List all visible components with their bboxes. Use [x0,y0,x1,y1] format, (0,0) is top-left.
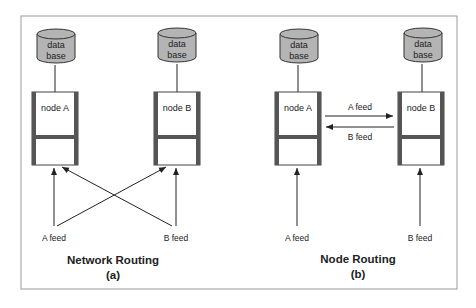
node-a: node A [275,92,321,165]
svg-text:base: base [413,50,433,60]
svg-text:node B: node B [163,103,192,113]
svg-text:data: data [290,40,308,50]
svg-text:data: data [168,39,186,49]
svg-text:node A: node A [284,103,312,113]
node-b: node B [398,92,444,165]
database-b: data base [404,28,442,62]
svg-text:base: base [167,50,187,60]
panel-a-subtitle: (a) [106,269,120,281]
svg-text:base: base [289,51,309,61]
feed-b-label: B feed [164,233,189,243]
node-b: node B [154,92,200,165]
feed-a-label: A feed [42,233,66,243]
diagram-frame [21,16,457,289]
panel-b-title: Node Routing [320,253,395,265]
node-a: node A [32,92,78,165]
svg-text:node B: node B [407,103,436,113]
database-a: data base [280,29,318,63]
arrow-bottom-label: B feed [348,132,373,142]
feed-b-label: B feed [408,233,433,243]
panel-b-subtitle: (b) [351,268,366,280]
feed-a-label: A feed [285,233,309,243]
svg-text:data: data [47,40,65,50]
panel-a-title: Network Routing [67,254,159,266]
arrow-top-label: A feed [348,102,372,112]
database-b: data base [158,28,196,62]
svg-text:data: data [414,39,432,49]
svg-text:base: base [46,51,66,61]
routing-diagram: data base node A data base node B A feed… [0,0,476,308]
database-a: data base [37,29,75,63]
svg-text:node A: node A [41,103,69,113]
